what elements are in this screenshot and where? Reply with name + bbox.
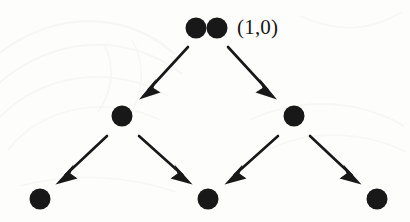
node-root-a xyxy=(186,18,207,39)
root-node-label: (1,0) xyxy=(237,17,278,38)
arrow-group xyxy=(56,47,362,185)
arrow-mid-right-to-leaf-right xyxy=(310,136,362,185)
paper-texture xyxy=(0,12,406,192)
node-mid-left xyxy=(112,106,133,127)
arrow-root-to-mid-right xyxy=(228,47,277,100)
tree-diagram-canvas xyxy=(0,0,410,222)
node-leaf-middle xyxy=(198,189,219,210)
arrow-mid-left-to-leaf-middle xyxy=(139,136,193,185)
tree-diagram-figure: (1,0) xyxy=(0,0,410,222)
node-mid-right xyxy=(284,106,305,127)
arrow-mid-right-to-leaf-middle xyxy=(225,136,279,185)
node-leaf-right xyxy=(367,189,388,210)
node-leaf-left xyxy=(30,189,51,210)
node-root-b xyxy=(207,18,228,39)
